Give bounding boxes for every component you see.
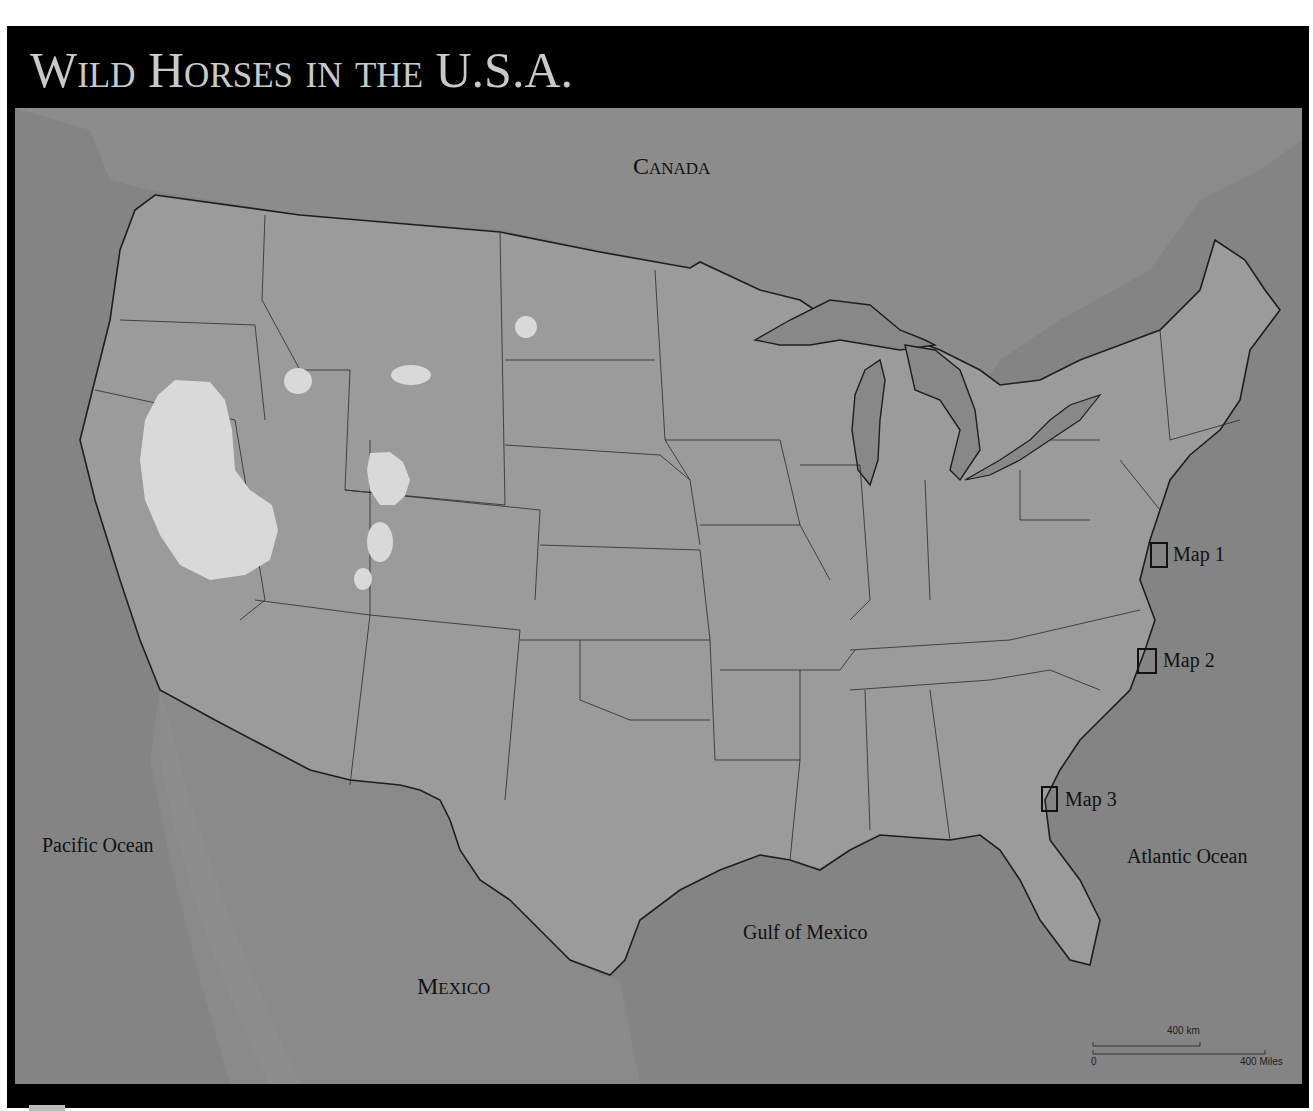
- map-2-link[interactable]: Map 2: [1163, 649, 1215, 672]
- map-3-link[interactable]: Map 3: [1065, 788, 1117, 811]
- scale-km-label: 400 km: [1167, 1025, 1200, 1036]
- horse-range-utah: [354, 568, 372, 590]
- horse-range-montana-wyoming: [391, 365, 431, 385]
- page-title: Wild Horses in the U.S.A.: [30, 40, 573, 100]
- scale-bar: [1093, 1042, 1265, 1054]
- label-pacific-ocean: Pacific Ocean: [42, 834, 154, 857]
- scale-zero-label: 0: [1091, 1056, 1097, 1067]
- label-atlantic-ocean: Atlantic Ocean: [1127, 845, 1248, 868]
- horse-range-idaho: [284, 368, 312, 394]
- scale-miles-label: 400 Miles: [1240, 1056, 1283, 1067]
- horse-range-north-dakota: [515, 316, 537, 338]
- map-1-link[interactable]: Map 1: [1173, 543, 1225, 566]
- label-mexico: Mexico: [417, 973, 490, 1000]
- legend-swatch: [29, 1105, 65, 1111]
- label-gulf-of-mexico: Gulf of Mexico: [743, 921, 867, 944]
- us-map-svg: [15, 108, 1302, 1084]
- label-canada: Canada: [633, 153, 710, 180]
- map-canvas[interactable]: Canada Mexico Pacific Ocean Atlantic Oce…: [15, 108, 1302, 1084]
- horse-range-colorado: [367, 522, 393, 562]
